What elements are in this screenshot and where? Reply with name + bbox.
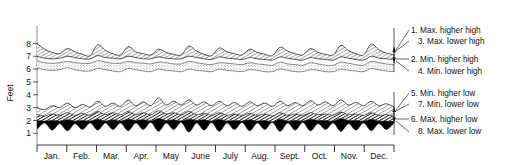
legend-entry-4: 4. Min. lower high [418, 67, 483, 76]
chart-background [0, 0, 528, 165]
y-tick-label-5: 5 [26, 77, 31, 87]
y-tick-label-3: 3 [26, 103, 31, 113]
legend-entry-2: 2. Min. higher high [411, 55, 479, 64]
legend-entry-7: 7. Min. lower low [418, 100, 479, 109]
month-label-8: Sept. [280, 151, 300, 161]
legend-entry-6: 6. Max. higher low [411, 115, 478, 124]
month-label-6: July [223, 151, 239, 161]
month-label-0: Jan. [44, 151, 60, 161]
month-label-11: Dec. [370, 151, 388, 161]
legend-entry-3: 3. Max. lower high [418, 37, 485, 46]
legend-entry-1: 1. Max. higher high [411, 26, 481, 35]
legend-entry-8: 8. Max. lower low [418, 127, 481, 136]
y-tick-label-1: 1 [26, 128, 31, 138]
tide-range-chart: 12345678 Feet Jan.Feb.Mar.Apr.MayJuneJul… [0, 0, 528, 165]
month-label-1: Feb. [73, 151, 90, 161]
month-label-5: June [191, 151, 210, 161]
month-label-7: Aug. [251, 151, 269, 161]
month-label-9: Oct. [312, 151, 328, 161]
y-tick-label-2: 2 [26, 116, 31, 126]
y-tick-label-7: 7 [26, 51, 31, 61]
y-tick-label-8: 8 [26, 39, 31, 49]
y-tick-label-4: 4 [26, 90, 31, 100]
month-label-3: Apr. [133, 151, 148, 161]
month-label-10: Nov. [341, 151, 358, 161]
y-tick-label-6: 6 [26, 64, 31, 74]
month-label-2: Mar. [103, 151, 120, 161]
y-axis-title: Feet [5, 84, 15, 102]
legend-entry-5: 5. Min. higher low [411, 89, 475, 98]
month-label-4: May [163, 151, 180, 161]
